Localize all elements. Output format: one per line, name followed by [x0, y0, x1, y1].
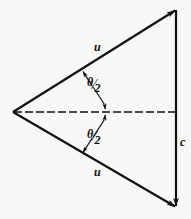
lower-angle-two: 2	[95, 133, 101, 147]
upper-angle-two: 2	[95, 81, 101, 95]
diagram-canvas	[0, 0, 191, 219]
upper-velocity-vector	[13, 11, 175, 113]
lower-angle-label: θ⁄2	[87, 128, 101, 144]
lower-angle-theta: θ	[87, 127, 93, 141]
lower-vector-label: u	[94, 166, 101, 178]
lower-velocity-vector	[13, 112, 175, 207]
lower-angle-arrow-to-axis	[104, 115, 105, 119]
upper-vector-label: u	[94, 41, 101, 53]
upper-angle-arrow-to-axis	[104, 106, 105, 110]
upper-angle-theta: θ	[87, 75, 93, 89]
upper-angle-label: θ⁄2	[87, 76, 101, 92]
velocity-triangle-figure: u u c θ⁄2 θ⁄2	[0, 0, 191, 219]
resultant-vector-label: c	[180, 136, 185, 148]
